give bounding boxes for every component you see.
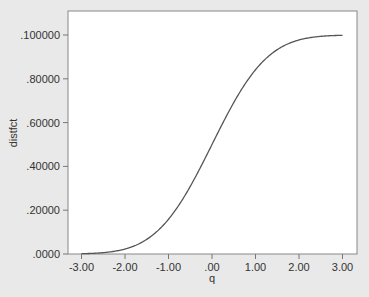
- cdf-chart: .0000.20000.40000.60000.80000.100000 -3.…: [0, 0, 369, 297]
- y-tick-label: .0000: [32, 248, 60, 260]
- x-axis-title: q: [209, 272, 215, 284]
- y-tick-label: .20000: [26, 204, 60, 216]
- x-axis: -3.00-2.00-1.00.001.002.003.00: [69, 254, 353, 273]
- y-tick-label: .60000: [26, 117, 60, 129]
- y-tick-label: .40000: [26, 160, 60, 172]
- x-tick-label: 2.00: [288, 261, 309, 273]
- x-tick-label: -2.00: [112, 261, 137, 273]
- x-tick-label: 3.00: [332, 261, 353, 273]
- x-tick-label: 1.00: [245, 261, 266, 273]
- y-axis-title: distfct: [7, 119, 19, 148]
- y-axis: .0000.20000.40000.60000.80000.100000: [20, 29, 68, 260]
- y-tick-label: .80000: [26, 73, 60, 85]
- x-tick-label: -1.00: [156, 261, 181, 273]
- x-tick-label: -3.00: [69, 261, 94, 273]
- y-tick-label: .100000: [20, 29, 60, 41]
- plot-area: [68, 11, 357, 254]
